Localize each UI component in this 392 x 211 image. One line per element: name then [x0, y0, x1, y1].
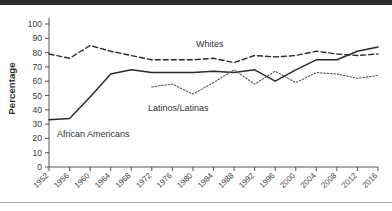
x-tick-label: 1992 [237, 171, 256, 190]
line-chart-svg: 0102030405060708090100 19521956196019641… [0, 5, 392, 202]
x-tick-label: 1960 [73, 171, 92, 190]
x-tick-label: 1984 [196, 171, 215, 190]
y-tick-label: 0 [37, 162, 42, 172]
y-axis-ticks: 0102030405060708090100 [28, 19, 49, 172]
chart-figure: Percentage 0102030405060708090100 195219… [0, 5, 392, 202]
y-tick-label: 90 [33, 33, 43, 43]
x-tick-label: 2008 [319, 171, 338, 190]
x-tick-label: 1988 [217, 171, 236, 190]
x-tick-label: 1964 [93, 171, 112, 190]
bottom-divider [0, 202, 392, 203]
y-tick-label: 60 [33, 76, 43, 86]
y-tick-label: 50 [33, 91, 43, 101]
x-tick-label: 2000 [278, 171, 297, 190]
series-label-latinos: Latinos/Latinas [148, 103, 209, 113]
x-tick-label: 2012 [340, 171, 359, 190]
x-tick-label: 2004 [299, 171, 318, 190]
series-label-african-americans: African Americans [57, 129, 130, 139]
x-axis-ticks: 1952195619601964196819721976198019841988… [31, 167, 379, 190]
x-tick-label: 1968 [114, 171, 133, 190]
x-tick-label: 1972 [134, 171, 153, 190]
series-line-latinos-latinas [152, 70, 378, 94]
y-tick-label: 100 [28, 19, 42, 29]
x-tick-label: 1996 [258, 171, 277, 190]
y-tick-label: 20 [33, 133, 43, 143]
y-tick-label: 10 [33, 148, 43, 158]
x-tick-label: 1976 [155, 171, 174, 190]
y-tick-label: 70 [33, 62, 43, 72]
y-tick-label: 40 [33, 105, 43, 115]
y-tick-label: 80 [33, 48, 43, 58]
x-tick-label: 1980 [175, 171, 194, 190]
y-tick-label: 30 [33, 119, 43, 129]
x-tick-label: 2016 [360, 171, 379, 190]
x-tick-label: 1952 [31, 171, 50, 190]
series-label-whites: Whites [196, 39, 224, 49]
data-series [49, 46, 378, 120]
x-tick-label: 1956 [52, 171, 71, 190]
